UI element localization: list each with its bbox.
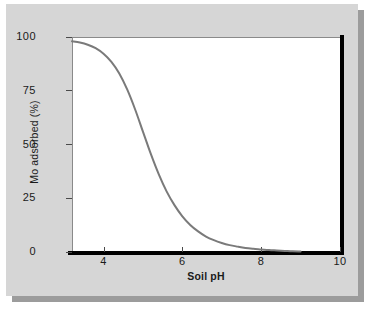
y-tick-mark [66, 252, 72, 253]
y-axis-title: Mo adsorbed (%) [28, 52, 40, 232]
figure-root: 025507510046810 Mo adsorbed (%) Soil pH [0, 0, 380, 315]
plot-area [72, 37, 340, 252]
x-tick-mark [340, 247, 341, 252]
x-tick-label: 6 [167, 256, 197, 267]
x-tick-label: 8 [246, 256, 276, 267]
plate-drop-shadow-right [358, 10, 364, 302]
x-tick-label: 4 [89, 256, 119, 267]
x-axis-title: Soil pH [72, 270, 340, 282]
x-tick-mark [104, 247, 105, 252]
x-tick-label: 10 [325, 256, 355, 267]
y-tick-mark [66, 144, 72, 145]
y-tick-mark [66, 90, 72, 91]
plate-drop-shadow-bottom [12, 296, 364, 302]
x-axis-spine [68, 251, 344, 255]
x-tick-mark [261, 247, 262, 252]
y-tick-mark [66, 198, 72, 199]
y-tick-label: 100 [0, 31, 36, 42]
y-axis-right-spine [340, 35, 344, 255]
figure-plate: 025507510046810 Mo adsorbed (%) Soil pH [6, 4, 358, 296]
x-tick-mark [182, 247, 183, 252]
y-tick-label: 0 [0, 246, 36, 257]
y-tick-mark [66, 37, 72, 38]
